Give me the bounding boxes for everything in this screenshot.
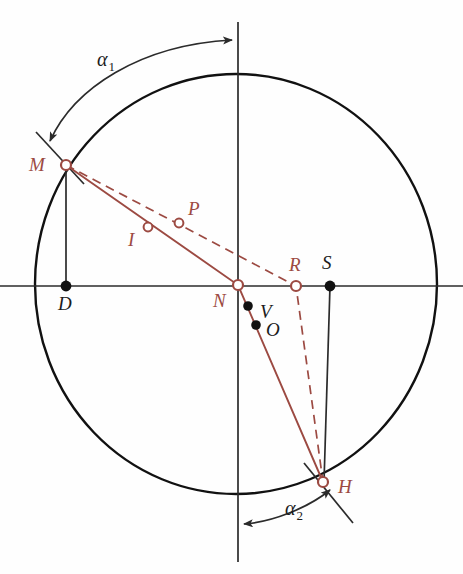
label-S: S [322, 253, 332, 272]
alpha1-arc [50, 40, 232, 141]
diagram-canvas [0, 0, 463, 574]
point-H [318, 477, 328, 487]
point-M [61, 160, 71, 170]
label-P: P [188, 199, 200, 218]
point-S [325, 281, 336, 292]
label-H: H [338, 477, 352, 496]
point-N [233, 280, 243, 290]
label-M: M [29, 155, 45, 174]
label-N: N [213, 291, 226, 310]
point-V [243, 301, 253, 311]
ordinate-S-H [324, 286, 330, 482]
point-I [144, 223, 153, 232]
label-alpha2-subscript: 2 [296, 508, 304, 523]
label-alpha1-subscript: 1 [108, 59, 116, 74]
label-alpha2: α2 [285, 498, 303, 522]
point-R [291, 281, 301, 291]
point-D [61, 281, 72, 292]
point-P [175, 219, 184, 228]
label-O: O [266, 320, 280, 339]
label-alpha1-symbol: α [97, 48, 108, 70]
label-alpha2-symbol: α [285, 497, 296, 519]
label-I: I [128, 230, 134, 249]
label-alpha1: α1 [97, 49, 115, 73]
geometry-diagram: α1 α2 M D I P N V O R S H [0, 0, 463, 574]
label-D: D [58, 294, 72, 313]
label-R: R [289, 255, 301, 274]
